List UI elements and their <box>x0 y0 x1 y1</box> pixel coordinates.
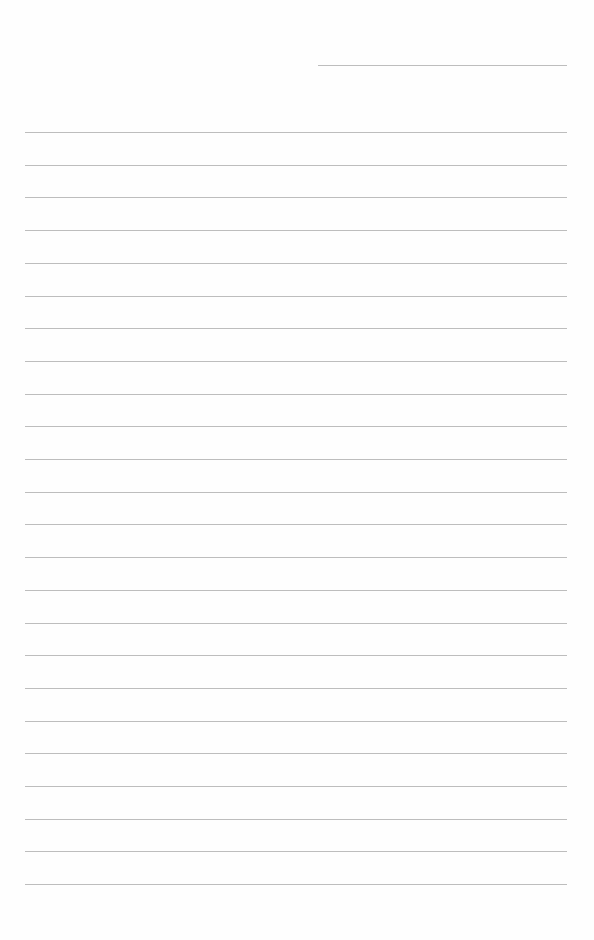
rule-line <box>25 884 567 885</box>
rule-line <box>25 851 567 852</box>
rule-line <box>25 655 567 656</box>
rule-line <box>25 753 567 754</box>
rule-line <box>25 328 567 329</box>
rule-line <box>25 165 567 166</box>
rule-line <box>25 394 567 395</box>
rule-line <box>25 426 567 427</box>
rule-line <box>25 590 567 591</box>
header-date-line <box>318 65 567 66</box>
rule-line <box>25 132 567 133</box>
rule-line <box>25 197 567 198</box>
rule-line <box>25 721 567 722</box>
rule-line <box>25 688 567 689</box>
rule-line <box>25 361 567 362</box>
rule-line <box>25 492 567 493</box>
rule-line <box>25 623 567 624</box>
rule-line <box>25 296 567 297</box>
rule-line <box>25 819 567 820</box>
rule-line <box>25 557 567 558</box>
rule-line <box>25 459 567 460</box>
rule-line <box>25 263 567 264</box>
rule-line <box>25 786 567 787</box>
rule-line <box>25 524 567 525</box>
rule-line <box>25 230 567 231</box>
